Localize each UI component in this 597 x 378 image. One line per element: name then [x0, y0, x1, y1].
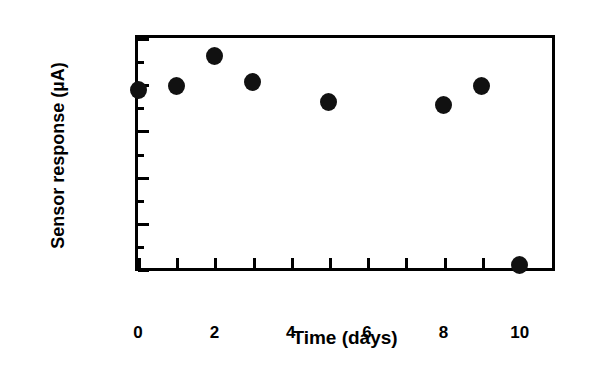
x-tick	[176, 258, 179, 268]
y-axis-title: Sensor response (µA)	[48, 6, 69, 306]
y-tick-minor	[138, 61, 144, 64]
data-point	[244, 73, 261, 91]
chart-figure: Sensor response (µA) 0.10 0.08 0.06 0.04…	[0, 0, 597, 378]
data-point	[511, 256, 528, 274]
y-tick-major	[138, 269, 149, 272]
y-tick-minor	[138, 154, 144, 157]
x-tick	[444, 258, 447, 268]
data-point	[320, 93, 337, 111]
x-tick	[329, 258, 332, 268]
x-tick	[253, 258, 256, 268]
data-point	[168, 77, 185, 95]
data-point	[130, 81, 147, 99]
x-axis-title: Time (days)	[135, 327, 555, 349]
x-tick	[291, 258, 294, 268]
y-tick-major	[138, 130, 149, 133]
data-point	[206, 47, 223, 65]
y-tick-minor	[138, 246, 144, 249]
plot-area: 0.10 0.08 0.06 0.04 0.02 0.00 0 2 4 6 8 …	[135, 35, 555, 271]
y-tick-minor	[138, 200, 144, 203]
data-point	[435, 96, 452, 114]
y-tick-major	[138, 38, 149, 41]
x-tick	[405, 258, 408, 268]
data-point	[473, 77, 490, 95]
x-tick	[482, 258, 485, 268]
x-tick	[367, 258, 370, 268]
x-tick	[214, 258, 217, 268]
y-tick-minor	[138, 107, 144, 110]
x-tick	[138, 258, 141, 268]
y-tick-major	[138, 223, 149, 226]
y-tick-major	[138, 177, 149, 180]
